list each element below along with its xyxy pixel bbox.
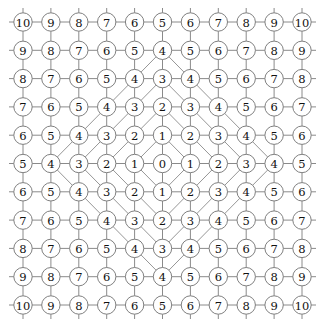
node-label: 7 [270,242,277,256]
node-label: 8 [75,16,82,30]
node-label: 9 [19,44,26,58]
node-label: 10 [295,17,310,29]
node-label: 2 [187,185,194,199]
node-label: 6 [215,44,222,58]
node-label: 8 [47,44,54,58]
node-label: 7 [270,72,277,86]
node-label: 8 [47,270,54,284]
node-label: 6 [187,299,194,313]
node-label: 5 [243,100,250,114]
node-label: 4 [215,100,222,114]
node-label: 5 [103,72,110,86]
node-label: 3 [243,157,250,171]
node-label: 4 [159,44,166,58]
node-label: 6 [243,242,250,256]
node-label: 10 [16,17,31,29]
node-label: 5 [131,44,138,58]
node-label: 5 [75,100,82,114]
node-label: 3 [159,72,166,86]
node-label: 3 [187,214,194,228]
node-label: 7 [243,270,250,284]
node-label: 7 [75,270,82,284]
node-label: 7 [215,16,222,30]
node-label: 7 [19,100,26,114]
node-label: 5 [47,129,54,143]
node-label: 4 [187,242,194,256]
node-label: 4 [75,129,82,143]
node-label: 7 [298,100,305,114]
node-label: 5 [103,242,110,256]
node-label: 2 [159,214,166,228]
node-label: 8 [270,44,277,58]
node-label: 9 [298,270,305,284]
node-label: 3 [187,100,194,114]
node-label: 7 [47,72,54,86]
node-label: 10 [295,300,310,312]
node-label: 6 [131,16,138,30]
node-label: 0 [159,157,166,171]
node-label: 5 [298,157,305,171]
node-label: 8 [298,72,305,86]
node-label: 9 [298,44,305,58]
node-label: 6 [47,214,54,228]
node-label: 6 [243,72,250,86]
grid-nodes-layer: 1098765678910987654567898765434567876543… [14,13,311,314]
node-label: 1 [159,129,166,143]
lattice-diagram: 1098765678910987654567898765434567876543… [0,0,321,335]
node-label: 9 [19,270,26,284]
node-label: 4 [270,157,277,171]
node-label: 3 [215,129,222,143]
node-label: 6 [75,72,82,86]
node-label: 4 [159,270,166,284]
node-label: 6 [215,270,222,284]
node-label: 6 [298,185,305,199]
node-label: 8 [75,299,82,313]
node-label: 5 [131,270,138,284]
node-label: 4 [103,214,110,228]
node-label: 2 [159,100,166,114]
node-label: 6 [103,44,110,58]
node-label: 7 [103,16,110,30]
node-label: 7 [47,242,54,256]
node-label: 6 [270,214,277,228]
node-label: 6 [187,16,194,30]
node-label: 7 [19,214,26,228]
node-label: 3 [103,129,110,143]
node-label: 3 [75,157,82,171]
node-label: 7 [103,299,110,313]
node-label: 3 [131,100,138,114]
node-label: 5 [215,72,222,86]
node-label: 9 [47,16,54,30]
node-label: 6 [75,242,82,256]
node-label: 7 [215,299,222,313]
node-label: 6 [47,100,54,114]
node-label: 8 [298,242,305,256]
node-label: 5 [75,214,82,228]
node-label: 2 [131,129,138,143]
node-label: 3 [103,185,110,199]
node-label: 4 [215,214,222,228]
node-label: 2 [215,157,222,171]
node-label: 10 [16,300,31,312]
node-label: 4 [187,72,194,86]
node-label: 9 [47,299,54,313]
node-label: 9 [270,16,277,30]
node-label: 6 [298,129,305,143]
node-label: 8 [270,270,277,284]
node-label: 3 [159,242,166,256]
node-label: 5 [47,185,54,199]
node-label: 7 [75,44,82,58]
node-label: 6 [19,185,26,199]
node-label: 5 [215,242,222,256]
node-label: 5 [159,299,166,313]
node-label: 4 [103,100,110,114]
node-label: 5 [159,16,166,30]
node-label: 9 [270,299,277,313]
node-label: 4 [131,72,138,86]
node-label: 1 [159,185,166,199]
node-label: 5 [243,214,250,228]
node-label: 8 [243,16,250,30]
node-label: 5 [270,129,277,143]
node-label: 6 [103,270,110,284]
node-label: 3 [215,185,222,199]
